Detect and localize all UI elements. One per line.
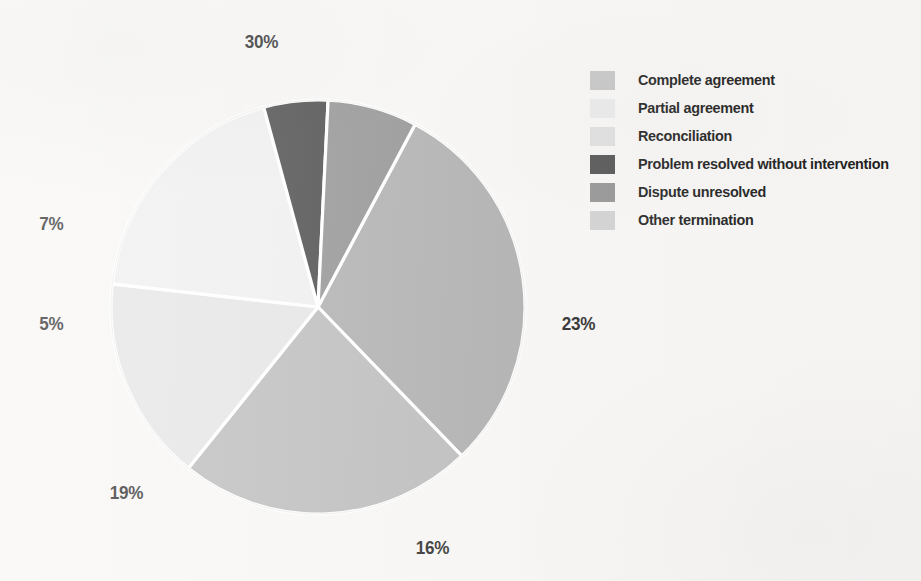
legend-color-swatch	[590, 155, 615, 174]
legend-color-swatch	[590, 183, 615, 202]
legend-item[interactable]: Reconciliation	[590, 122, 908, 150]
legend-color-swatch	[590, 127, 615, 146]
legend-item[interactable]: Other termination	[590, 206, 908, 234]
pie-label-5: 5%	[39, 313, 63, 335]
legend-item-label: Complete agreement	[638, 71, 775, 89]
legend-item-label: Other termination	[638, 211, 753, 229]
legend-color-swatch	[590, 99, 615, 118]
pie-label-19: 19%	[110, 482, 143, 504]
legend-item[interactable]: Dispute unresolved	[590, 178, 908, 206]
legend-item[interactable]: Partial agreement	[590, 94, 908, 122]
legend-item-label: Reconciliation	[638, 127, 732, 145]
legend-item[interactable]: Problem resolved without intervention	[590, 150, 908, 178]
legend-item-label: Problem resolved without intervention	[638, 155, 889, 173]
pie-chart-figure: 30%23%16%19%5%7% Complete agreementParti…	[0, 0, 921, 581]
pie-label-7: 7%	[39, 213, 63, 235]
pie-label-30: 30%	[245, 31, 278, 53]
legend-item-label: Partial agreement	[638, 99, 753, 117]
pie-label-23: 23%	[562, 313, 595, 335]
legend-item-label: Dispute unresolved	[638, 183, 766, 201]
legend-color-swatch	[590, 71, 615, 90]
legend-item[interactable]: Complete agreement	[590, 66, 908, 94]
legend-color-swatch	[590, 211, 615, 230]
chart-legend: Complete agreementPartial agreementRecon…	[590, 66, 908, 234]
pie-label-16: 16%	[416, 537, 449, 559]
